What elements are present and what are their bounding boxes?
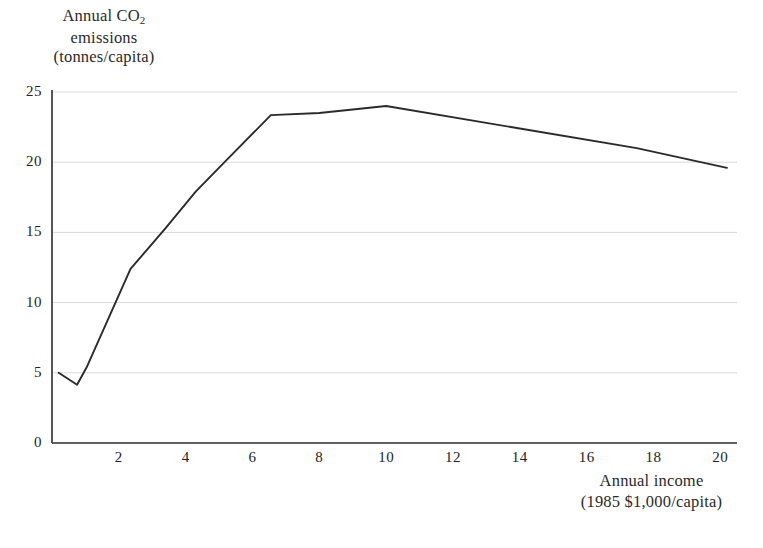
axis-lines <box>52 90 737 443</box>
x-tick-label-8: 8 <box>299 449 339 466</box>
x-tick-label-10: 10 <box>366 449 406 466</box>
y-tick-label-5: 5 <box>8 364 42 381</box>
y-tick-label-15: 15 <box>8 223 42 240</box>
x-tick-label-6: 6 <box>232 449 272 466</box>
data-line-0 <box>59 106 727 385</box>
x-tick-label-2: 2 <box>99 449 139 466</box>
y-tick-label-20: 20 <box>8 153 42 170</box>
x-tick-label-12: 12 <box>433 449 473 466</box>
data-series-layer <box>59 106 727 385</box>
x-tick-label-14: 14 <box>500 449 540 466</box>
chart-figure: Annual CO2 emissions (tonnes/capita) Ann… <box>0 0 763 548</box>
x-tick-label-18: 18 <box>633 449 673 466</box>
plot-area: 0510152025 2468101214161820 <box>0 0 763 548</box>
y-tick-label-10: 10 <box>8 294 42 311</box>
x-tick-label-20: 20 <box>700 449 740 466</box>
y-tick-label-0: 0 <box>8 434 42 451</box>
x-tick-label-16: 16 <box>567 449 607 466</box>
x-tick-label-4: 4 <box>166 449 206 466</box>
y-tick-label-25: 25 <box>8 83 42 100</box>
gridlines <box>52 92 737 373</box>
